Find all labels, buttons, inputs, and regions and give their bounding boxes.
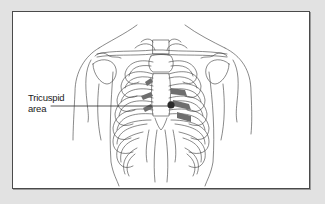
- left-ribs: [113, 61, 153, 176]
- left-torso-outline: [110, 72, 119, 186]
- figure-frame: Tricuspid area: [12, 11, 310, 189]
- neck-left-outline: [99, 25, 137, 48]
- xiphoid: [155, 118, 167, 130]
- tricuspid-marker-dot: [167, 101, 174, 108]
- sternum-body: [152, 74, 171, 116]
- shaded-intercostal-areas: [141, 78, 191, 122]
- manubrium: [149, 55, 173, 73]
- neck-right-outline: [185, 25, 225, 48]
- label-line-1: Tricuspid: [28, 92, 64, 103]
- label-line-2: area: [28, 103, 64, 114]
- tricuspid-area-label: Tricuspid area: [28, 92, 64, 114]
- clavicles: [97, 50, 227, 54]
- right-arm-outline: [225, 48, 252, 134]
- right-torso-outline: [205, 72, 214, 186]
- trachea-segment: [153, 40, 169, 54]
